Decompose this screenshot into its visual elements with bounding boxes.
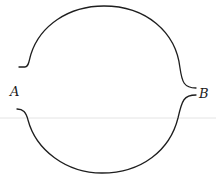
lower-arc [17, 95, 196, 173]
node-label-a: A [9, 84, 19, 99]
node-label-b: B [198, 86, 209, 101]
diagram-canvas: A B [0, 0, 216, 183]
upper-arc [19, 6, 196, 88]
